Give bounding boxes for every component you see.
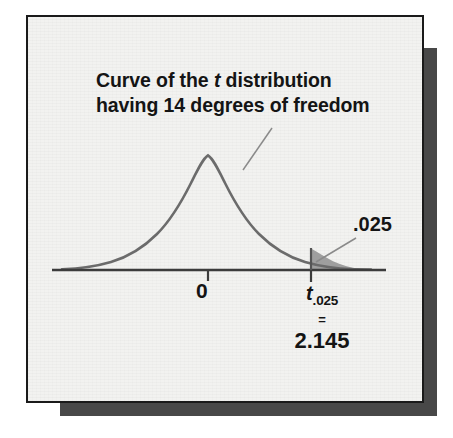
t-distribution-curve bbox=[62, 155, 371, 269]
caption-line-1: Curve of the t distribution bbox=[96, 69, 332, 91]
figure-stage: Curve of the t distribution having 14 de… bbox=[0, 0, 453, 438]
critical-symbol: t.025 bbox=[262, 282, 382, 312]
critical-symbol-subscript: .025 bbox=[313, 293, 338, 308]
caption-suffix: distribution bbox=[220, 69, 331, 91]
critical-equals-sign: = bbox=[262, 313, 382, 327]
caption-prefix: Curve of the bbox=[96, 69, 214, 91]
caption-line-2: having 14 degrees of freedom bbox=[96, 94, 370, 116]
tail-probability-label: .025 bbox=[353, 213, 392, 236]
axis-label-zero: 0 bbox=[196, 279, 208, 303]
critical-value-number: 2.145 bbox=[262, 328, 382, 354]
critical-symbol-variable: t bbox=[306, 282, 313, 304]
caption-leader-line bbox=[243, 128, 272, 170]
figure-caption: Curve of the t distribution having 14 de… bbox=[96, 68, 416, 118]
critical-value-label-group: t.025 = 2.145 bbox=[262, 282, 382, 354]
tail-probability-leader-line bbox=[316, 238, 356, 262]
